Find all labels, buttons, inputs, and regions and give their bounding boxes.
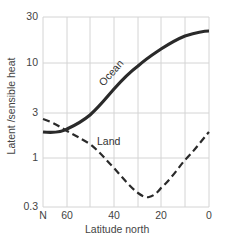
x-axis-label: Latitude north — [85, 223, 149, 235]
x-tick-20: 20 — [149, 209, 173, 221]
latent-sensible-heat-chart: Latent /sensible heat 30 10 3 1 0.3 N 60… — [0, 0, 231, 243]
gridlines — [43, 17, 209, 207]
ocean-curve — [43, 31, 209, 132]
x-tick-0: 0 — [197, 209, 221, 221]
y-tick-30: 30 — [14, 10, 38, 22]
land-label: Land — [97, 135, 120, 147]
y-tick-1: 1 — [14, 151, 38, 163]
y-tick-10: 10 — [14, 56, 38, 68]
x-tick-40: 40 — [102, 209, 126, 221]
x-tick-60: 60 — [55, 209, 79, 221]
x-tick-n: N — [31, 209, 55, 221]
y-tick-3: 3 — [14, 106, 38, 118]
